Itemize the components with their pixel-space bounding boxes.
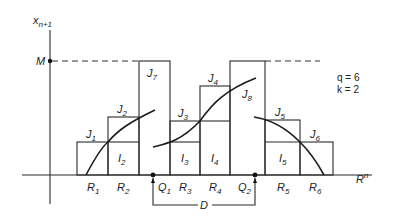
label-j1: J1 [85, 128, 96, 143]
label-j2: J2 [116, 103, 128, 118]
x-axis-label: Rn [356, 171, 369, 185]
label-q2: Q2 [238, 181, 252, 196]
q1-point [151, 173, 156, 178]
label-j3: J3 [177, 107, 189, 122]
q2-point [253, 173, 258, 178]
map-curve-middle [153, 78, 256, 147]
label-i5: I5 [279, 152, 287, 167]
max-label: M [36, 55, 46, 67]
y-axis-label: xn+1 [32, 14, 52, 29]
max-point-marker [48, 59, 52, 63]
interval-map-diagram: xn+1 Rn M q = 6 k = 2 J1 J2 J3 J4 J5 J6 … [0, 0, 409, 222]
label-q1: Q1 [158, 181, 171, 196]
label-r4: R4 [209, 181, 222, 196]
label-i4: I4 [211, 152, 219, 167]
param-q: q = 6 [337, 72, 360, 83]
d-arrow-right-icon [253, 178, 257, 183]
label-i2: I2 [118, 152, 126, 167]
label-j6: J6 [309, 128, 321, 143]
label-j4: J4 [207, 72, 219, 87]
label-i3: I3 [181, 152, 189, 167]
label-d: D [200, 199, 208, 211]
label-r5: R5 [277, 181, 290, 196]
label-j8: J8 [241, 88, 253, 103]
label-r6: R6 [309, 181, 322, 196]
d-arrow-left-icon [151, 178, 155, 183]
label-j7: J7 [146, 67, 158, 82]
label-r1: R1 [87, 181, 99, 196]
label-j5: J5 [274, 106, 286, 121]
label-r2: R2 [117, 181, 130, 196]
param-k: k = 2 [337, 84, 359, 95]
label-r3: R3 [179, 181, 192, 196]
